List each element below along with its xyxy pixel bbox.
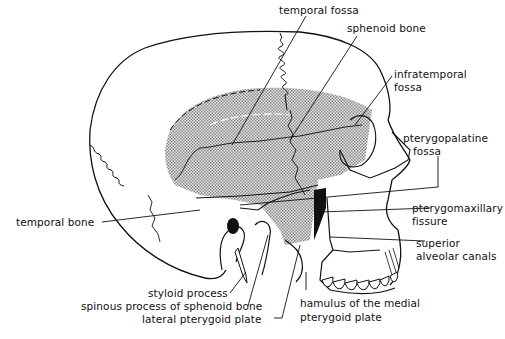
label-lateral-pterygoid-plate: lateral pterygoid plate [142, 313, 262, 325]
label-temporal-bone: temporal bone [16, 216, 94, 228]
label-hamulus-line2: pterygoid plate [300, 311, 382, 323]
pterygomaxillary-fissure-shape [314, 188, 326, 240]
alveolar-canal-lines [385, 248, 399, 275]
label-spinous-process: spinous process of sphenoid bone [81, 300, 262, 312]
label-infratemporal-fossa-line1: infratemporal [394, 68, 467, 80]
external-acoustic-meatus [227, 218, 239, 234]
maxilla-body [320, 250, 395, 294]
label-hamulus-line1: hamulus of the medial [300, 297, 420, 309]
lateral-pterygoid-plate-shape [255, 222, 270, 275]
upper-teeth [322, 272, 398, 290]
label-infratemporal-fossa-line2: fossa [394, 81, 422, 93]
label-superior-alveolar-canals-line1: superior [416, 237, 460, 249]
styloid-process-shape [235, 248, 247, 283]
temporal-fossa-shading [165, 88, 372, 245]
label-styloid-process: styloid process [148, 287, 228, 299]
temporal-vertical-suture [148, 195, 160, 242]
label-pterygomaxillary-fissure-line1: pterygomaxillary [412, 202, 503, 214]
label-pterygopalatine-fossa-line2: fossa [413, 145, 441, 157]
label-pterygopalatine-fossa-line1: pterygopalatine [403, 132, 488, 144]
label-pterygomaxillary-fissure-line2: fissure [412, 215, 447, 227]
label-superior-alveolar-canals-line2: alveolar canals [416, 250, 497, 262]
label-temporal-fossa: temporal fossa [279, 4, 359, 16]
skull-diagram [0, 0, 505, 339]
maxillary-posterior-wall [327, 198, 380, 252]
maxilla-outline [386, 120, 410, 285]
label-sphenoid-bone: sphenoid bone [347, 22, 426, 34]
